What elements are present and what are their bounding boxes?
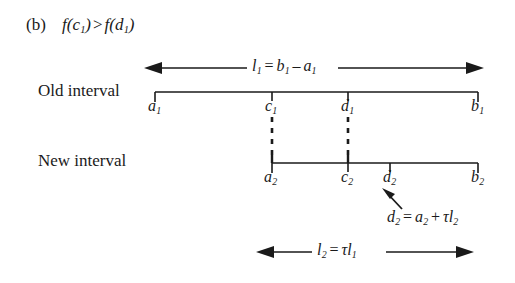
diagram-strokes bbox=[0, 0, 515, 283]
d2-definition-annotation: d2=a2+τl2 bbox=[387, 209, 458, 225]
tick-label-b2: b2 bbox=[471, 169, 484, 185]
tick-label-b1: b1 bbox=[471, 98, 484, 114]
bottom-measure-arrowhead-right bbox=[456, 246, 474, 258]
tick-label-a2: a2 bbox=[264, 169, 277, 185]
golden-section-search-figure: (b) f(c1)>f(d1) Old interval New interva… bbox=[0, 0, 515, 283]
tick-label-c2: c2 bbox=[341, 169, 353, 185]
annotation-callout-arrowhead bbox=[382, 188, 395, 199]
bottom-measure-arrowhead-left bbox=[256, 246, 274, 258]
bottom-measure-label: l2=τl1 bbox=[312, 242, 362, 258]
top-measure-label: l1=b1–a1 bbox=[247, 58, 321, 74]
tick-label-d1: d1 bbox=[341, 98, 354, 114]
top-measure-arrowhead-right bbox=[466, 62, 484, 74]
tick-label-d2: d2 bbox=[383, 169, 396, 185]
top-measure-arrowhead-left bbox=[144, 62, 162, 74]
tick-label-a1: a1 bbox=[148, 98, 161, 114]
tick-label-c1: c1 bbox=[265, 98, 277, 114]
